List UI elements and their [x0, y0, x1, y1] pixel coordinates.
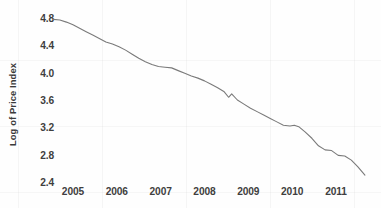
data-series-line [53, 19, 365, 175]
plot-area [0, 0, 381, 208]
chart-container: Log of Price Index 4.8 4.4 4.0 3.6 3.2 2… [0, 0, 381, 208]
